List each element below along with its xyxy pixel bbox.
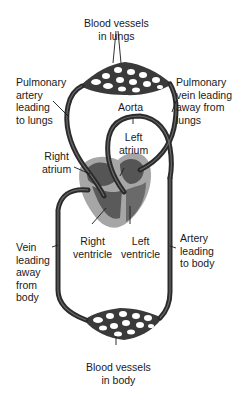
- circulation-artwork: [0, 0, 243, 401]
- label-left-atrium: Left atrium: [119, 131, 148, 156]
- label-pulmonary-vein: Pulmonary vein leading away from lungs: [176, 76, 232, 126]
- label-lung-vessels: Blood vessels in lungs: [84, 17, 149, 42]
- body-capillary-bed: [84, 308, 162, 340]
- lung-capillary-bed: [80, 62, 172, 95]
- artery-to-body: [160, 178, 170, 318]
- label-right-atrium: Right atrium: [42, 150, 71, 175]
- label-left-ventricle: Left ventricle: [121, 235, 160, 260]
- label-body-vessels: Blood vessels in body: [86, 361, 151, 386]
- label-vein-from-body: Vein leading away from body: [16, 241, 50, 304]
- label-pulmonary-artery: Pulmonary artery leading to lungs: [16, 76, 66, 126]
- circulation-diagram: Blood vessels in lungs Pulmonary artery …: [0, 0, 243, 401]
- label-aorta: Aorta: [118, 101, 143, 114]
- label-artery-to-body: Artery leading to body: [180, 232, 214, 270]
- label-right-ventricle: Right ventricle: [73, 235, 112, 260]
